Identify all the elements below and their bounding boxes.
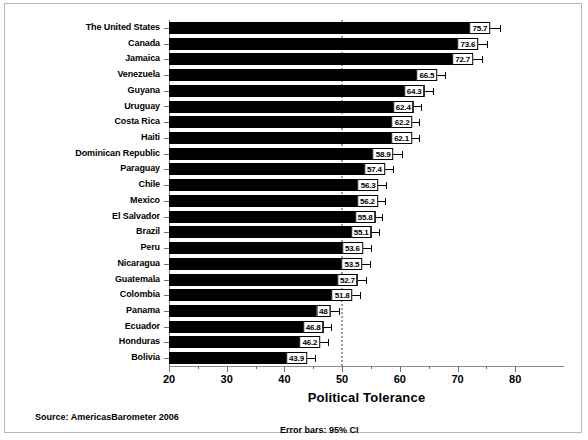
error-bar-cap: [379, 229, 380, 236]
error-bar-line: [363, 248, 371, 249]
x-axis-tick-label: 70: [451, 373, 463, 385]
error-bar-line: [437, 75, 445, 76]
bar-value-label: 57.4: [364, 163, 385, 175]
x-axis-tick-major: [515, 366, 516, 372]
bar-value-label: 72.7: [452, 53, 473, 65]
bar: [169, 305, 331, 317]
error-bar-line: [425, 91, 433, 92]
bar: [169, 38, 478, 50]
error-bar-cap: [339, 308, 340, 315]
bar: [169, 321, 324, 333]
error-bar-line: [385, 169, 393, 170]
bar: [169, 274, 358, 286]
error-bar-line: [324, 327, 332, 328]
x-axis-tick-major: [400, 366, 401, 372]
bar-value-label: 58.9: [373, 148, 394, 160]
bar-value-label: 48: [316, 305, 331, 317]
error-bar-line: [412, 138, 420, 139]
bar: [169, 69, 437, 81]
error-bar-line: [358, 280, 366, 281]
x-axis-line: [169, 366, 564, 367]
bar: [169, 132, 412, 144]
x-axis-tick-major: [458, 366, 459, 372]
y-axis-label-nicaragua: Nicaragua: [117, 258, 160, 268]
y-axis-label-peru: Peru: [140, 242, 160, 252]
error-bar-cap: [385, 198, 386, 205]
error-bar-cap: [315, 355, 316, 362]
y-axis-label-paraguay: Paraguay: [120, 163, 160, 173]
x-axis-tick-minor: [256, 366, 257, 369]
error-bar-line: [378, 201, 386, 202]
y-axis-label-venezuela: Venezuela: [117, 69, 160, 79]
error-bar-cap: [419, 135, 420, 142]
bar: [169, 226, 372, 238]
error-bar-line: [320, 342, 328, 343]
bar: [169, 336, 320, 348]
error-bar-cap: [421, 104, 422, 111]
bar-value-label: 73.6: [457, 38, 478, 50]
error-bar-line: [362, 264, 370, 265]
bar-value-label: 46.8: [303, 321, 324, 333]
error-bar-cap: [402, 151, 403, 158]
error-bar-line: [331, 311, 339, 312]
x-axis-tick-label: 60: [394, 373, 406, 385]
source-note: Source: AmericasBarometer 2006: [35, 412, 179, 422]
bar: [169, 101, 414, 113]
error-bar-cap: [386, 182, 387, 189]
error-bar-line: [378, 185, 386, 186]
error-bar-line: [412, 122, 419, 123]
x-axis-tick-major: [284, 366, 285, 372]
error-bar-line: [307, 358, 315, 359]
bar: [169, 22, 490, 34]
bar-value-label: 56.3: [358, 179, 379, 191]
error-bar-cap: [445, 72, 446, 79]
y-axis-label-dominican-republic: Dominican Republic: [75, 148, 160, 158]
bar-value-label: 43.9: [286, 352, 307, 364]
x-axis-tick-minor: [371, 366, 372, 369]
y-axis-label-costa-rica: Costa Rica: [114, 116, 160, 126]
bar-value-label: 62.4: [393, 101, 414, 113]
y-axis-label-uruguay: Uruguay: [124, 101, 160, 111]
y-axis-label-chile: Chile: [138, 179, 160, 189]
x-axis-tick-label: 50: [336, 373, 348, 385]
y-axis-label-bolivia: Bolivia: [131, 352, 160, 362]
y-axis-label-honduras: Honduras: [119, 336, 160, 346]
y-axis-label-panama: Panama: [126, 305, 160, 315]
y-axis-label-the-united-states: The United States: [86, 22, 160, 32]
error-bar-line: [352, 295, 360, 296]
x-axis-tick-major: [169, 366, 170, 372]
error-bar-line: [473, 59, 482, 60]
x-axis-tick-label: 40: [278, 373, 290, 385]
bar-value-label: 46.2: [299, 336, 320, 348]
bar-value-label: 53.6: [342, 242, 363, 254]
bar: [169, 116, 412, 128]
y-axis-label-jamaica: Jamaica: [125, 53, 160, 63]
bar: [169, 179, 378, 191]
bar-value-label: 55.8: [355, 211, 376, 223]
bar-value-label: 64.3: [404, 85, 425, 97]
y-axis-label-haiti: Haiti: [141, 132, 160, 142]
x-axis-tick-label: 80: [509, 373, 521, 385]
error-bar-note: Error bars: 95% CI: [280, 425, 359, 435]
bar: [169, 289, 352, 301]
error-bar-line: [372, 232, 380, 233]
bar-value-label: 62.1: [391, 132, 412, 144]
y-axis-label-canada: Canada: [128, 38, 160, 48]
bar: [169, 163, 385, 175]
error-bar-cap: [366, 277, 367, 284]
error-bar-cap: [382, 214, 383, 221]
chart-figure: The United StatesCanadaJamaicaVenezuelaG…: [4, 3, 582, 433]
error-bar-cap: [331, 324, 332, 331]
error-bar-cap: [487, 41, 488, 48]
error-bar-cap: [370, 261, 371, 268]
y-axis-label-colombia: Colombia: [120, 289, 160, 299]
error-bar-line: [376, 217, 383, 218]
bar-value-label: 62.2: [392, 116, 413, 128]
x-axis-title: Political Tolerance: [169, 390, 564, 405]
y-axis-label-guyana: Guyana: [128, 85, 160, 95]
error-bar-line: [478, 44, 487, 45]
bar: [169, 85, 425, 97]
error-bar-cap: [419, 119, 420, 126]
bar-value-label: 75.7: [470, 22, 491, 34]
y-axis-label-brazil: Brazil: [136, 226, 160, 236]
